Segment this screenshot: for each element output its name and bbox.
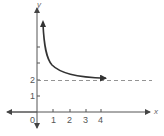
- x-tick-label-4: 4: [98, 116, 103, 125]
- y-tick-label-2: 2: [30, 76, 35, 85]
- x-axis-label: x: [154, 108, 158, 116]
- x-tick-label-0: 0: [30, 116, 35, 125]
- curve-line: [43, 24, 106, 78]
- y-axis-label: y: [37, 1, 41, 9]
- y-tick-label-1: 1: [30, 92, 35, 101]
- chart-canvas: [0, 0, 164, 136]
- x-tick-label-2: 2: [67, 116, 72, 125]
- x-tick-label-1: 1: [51, 116, 56, 125]
- curve-start-arrow: [40, 20, 46, 27]
- x-tick-label-3: 3: [83, 116, 88, 125]
